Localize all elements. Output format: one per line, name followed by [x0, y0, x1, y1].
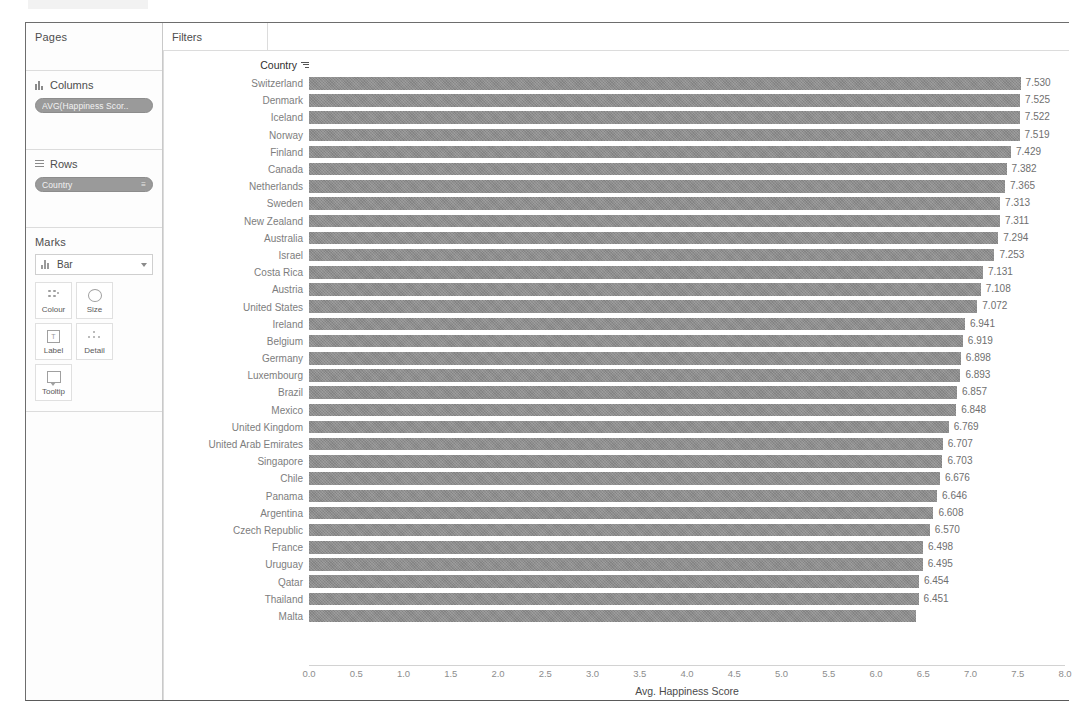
bar-row[interactable]: Panama6.646 — [164, 488, 1065, 505]
bar-row[interactable]: Brazil6.857 — [164, 384, 1065, 401]
bar[interactable] — [309, 575, 919, 588]
marks-label-button[interactable]: T Label — [35, 323, 72, 360]
bar[interactable] — [309, 558, 923, 571]
bar-row[interactable]: Canada7.382 — [164, 161, 1065, 178]
bar[interactable] — [309, 146, 1011, 159]
bar-row[interactable]: Luxembourg6.893 — [164, 367, 1065, 384]
marks-size-button[interactable]: Size — [76, 282, 113, 319]
rows-pill-country[interactable]: Country ≡ — [35, 177, 153, 192]
bar[interactable] — [309, 266, 983, 279]
bar-value-label: 6.608 — [933, 507, 963, 520]
bar[interactable] — [309, 215, 1000, 228]
bar-value-label: 7.253 — [994, 249, 1024, 262]
bar[interactable] — [309, 421, 949, 434]
country-column-header[interactable]: Country — [164, 59, 309, 71]
bar[interactable] — [309, 197, 1000, 210]
bar[interactable] — [309, 524, 930, 537]
rows-pill-label: Country — [42, 180, 138, 190]
bar[interactable] — [309, 77, 1021, 90]
bar-row[interactable]: Malta — [164, 608, 1065, 625]
detail-icon — [88, 329, 102, 344]
bar[interactable] — [309, 404, 956, 417]
bar-row[interactable]: Australia7.294 — [164, 230, 1065, 247]
marks-colour-button[interactable]: Colour — [35, 282, 72, 319]
bar[interactable] — [309, 111, 1020, 124]
bar-row[interactable]: Denmark7.525 — [164, 92, 1065, 109]
filters-shelf[interactable]: Filters — [163, 23, 268, 50]
bar-row[interactable]: United Kingdom6.769 — [164, 419, 1065, 436]
bar-lane — [309, 608, 1065, 625]
bar-row[interactable]: Iceland7.522 — [164, 109, 1065, 126]
bar-row-label: Austria — [164, 284, 309, 295]
bar-lane: 6.703 — [309, 453, 1065, 470]
bar-value-label: 6.703 — [942, 455, 972, 468]
bar[interactable] — [309, 490, 937, 503]
bar[interactable] — [309, 300, 977, 313]
bar[interactable] — [309, 180, 1005, 193]
bar-row-label: Belgium — [164, 336, 309, 347]
bar-row[interactable]: Israel7.253 — [164, 247, 1065, 264]
mark-type-value: Bar — [57, 259, 141, 270]
marks-label-label: Label — [44, 346, 64, 355]
bar-lane: 7.522 — [309, 109, 1065, 126]
marks-detail-button[interactable]: Detail — [76, 323, 113, 360]
columns-title-row: Columns — [35, 79, 153, 91]
bar-row-label: Costa Rica — [164, 267, 309, 278]
tooltip-icon — [47, 370, 61, 385]
bar-row[interactable]: Belgium6.919 — [164, 333, 1065, 350]
bar-row[interactable]: France6.498 — [164, 539, 1065, 556]
bar-row[interactable]: Qatar6.454 — [164, 573, 1065, 590]
bar[interactable] — [309, 352, 961, 365]
pages-dropzone[interactable] — [35, 49, 153, 69]
bar[interactable] — [309, 94, 1020, 107]
marks-size-label: Size — [87, 305, 103, 314]
bar-row[interactable]: Singapore6.703 — [164, 453, 1065, 470]
bar[interactable] — [309, 283, 981, 296]
bar-row[interactable]: United States7.072 — [164, 298, 1065, 315]
bar-value-label: 6.454 — [919, 575, 949, 588]
bar-row[interactable]: Thailand6.451 — [164, 591, 1065, 608]
bar[interactable] — [309, 438, 943, 451]
bar-value-label: 7.294 — [998, 232, 1028, 245]
bar[interactable] — [309, 163, 1007, 176]
bar-row[interactable]: Mexico6.848 — [164, 402, 1065, 419]
bar-row[interactable]: Ireland6.941 — [164, 316, 1065, 333]
bar-row[interactable]: Austria7.108 — [164, 281, 1065, 298]
sort-descending-icon[interactable] — [301, 62, 309, 69]
bar-row[interactable]: Uruguay6.495 — [164, 556, 1065, 573]
bar-row[interactable]: Switzerland7.530 — [164, 75, 1065, 92]
bar[interactable] — [309, 472, 940, 485]
bar-row[interactable]: Argentina6.608 — [164, 505, 1065, 522]
x-axis-tick-label: 7.0 — [964, 668, 977, 679]
bar[interactable] — [309, 369, 960, 382]
bar[interactable] — [309, 318, 965, 331]
x-axis-tick-label: 3.0 — [586, 668, 599, 679]
bar[interactable] — [309, 386, 957, 399]
bar-row[interactable]: Finland7.429 — [164, 144, 1065, 161]
bar[interactable] — [309, 335, 963, 348]
bar[interactable] — [309, 129, 1020, 142]
bar-row[interactable]: Costa Rica7.131 — [164, 264, 1065, 281]
mark-type-select[interactable]: Bar — [35, 254, 153, 275]
bar[interactable] — [309, 541, 923, 554]
marks-tooltip-button[interactable]: Tooltip — [35, 364, 72, 401]
bar-row[interactable]: Netherlands7.365 — [164, 178, 1065, 195]
x-axis-tick-label: 5.5 — [822, 668, 835, 679]
bar-row[interactable]: Chile6.676 — [164, 470, 1065, 487]
bar[interactable] — [309, 610, 916, 623]
bar-row-label: Germany — [164, 353, 309, 364]
bar[interactable] — [309, 593, 919, 606]
bar[interactable] — [309, 232, 998, 245]
bar[interactable] — [309, 455, 942, 468]
bar[interactable] — [309, 507, 933, 520]
bar-row[interactable]: New Zealand7.311 — [164, 213, 1065, 230]
bar[interactable] — [309, 249, 994, 262]
bar-row[interactable]: United Arab Emirates6.707 — [164, 436, 1065, 453]
bar-row[interactable]: Sweden7.313 — [164, 195, 1065, 212]
bar-row[interactable]: Czech Republic6.570 — [164, 522, 1065, 539]
bar-row[interactable]: Norway7.519 — [164, 127, 1065, 144]
x-axis-tick-label: 4.5 — [728, 668, 741, 679]
columns-pill-avg-happiness-score[interactable]: AVG(Happiness Scor.. — [35, 98, 153, 113]
bar-row-label: Argentina — [164, 508, 309, 519]
bar-row[interactable]: Germany6.898 — [164, 350, 1065, 367]
